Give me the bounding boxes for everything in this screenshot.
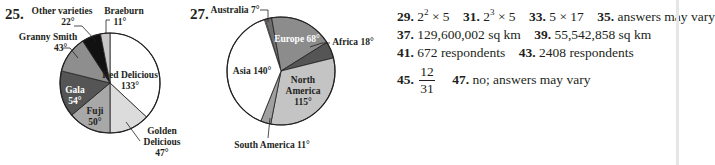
answer-29-rest: × 5 [429, 9, 450, 24]
label-red-delicious-value: 133° [121, 81, 139, 91]
label-africa: Africa 18° [332, 37, 374, 47]
label-other-value: 22° [61, 17, 75, 27]
label-granny: Granny Smith [19, 32, 78, 42]
label-fuji: Fuji [87, 106, 104, 116]
answer-35-text: answers may vary [618, 9, 715, 24]
label-golden: Golden [147, 126, 177, 136]
answer-33-text: 5 × 17 [549, 9, 584, 24]
label-granny-value: 43° [54, 43, 68, 53]
answer-43-text: 2408 respondents [539, 45, 634, 60]
answer-row-3: 41. 672 respondents 43. 2408 respondents [397, 44, 715, 62]
page-edge-divider [676, 0, 679, 165]
answer-29-base: 2 [417, 9, 424, 24]
answer-43-number: 43. [519, 45, 536, 60]
label-gala: Gala [65, 85, 85, 95]
label-red-delicious: Red Delicious [102, 70, 158, 80]
answer-39-number: 39. [534, 27, 551, 42]
answer-row-1: 29. 22 × 5 31. 23 × 5 33. 5 × 17 35. ans… [397, 3, 715, 26]
label-fuji-value: 50° [88, 117, 102, 127]
fraction-denominator: 31 [419, 81, 435, 97]
answer-31-base: 2 [483, 9, 490, 24]
label-other: Other varieties [32, 6, 93, 16]
answer-35-number: 35. [597, 9, 614, 24]
label-europe: Europe 68° [274, 34, 320, 44]
label-north-america: North [291, 75, 316, 85]
answer-37-text: 129,600,002 sq km [417, 27, 521, 42]
answer-47-number: 47. [452, 71, 469, 86]
answer-list: 29. 22 × 5 31. 23 × 5 33. 5 × 17 35. ans… [397, 3, 715, 97]
answer-41-text: 672 respondents [417, 45, 505, 60]
answer-37-number: 37. [397, 27, 414, 42]
pie-chart-apple-varieties [60, 33, 160, 133]
answer-45-number: 45. [397, 71, 414, 86]
label-north-america-2: America [286, 86, 321, 96]
answer-29-number: 29. [397, 9, 414, 24]
answer-row-4: 45. 12 31 47. no; answers may vary [397, 64, 715, 97]
label-south-america: South America 11° [234, 140, 310, 150]
answer-33-number: 33. [529, 9, 546, 24]
answer-47-text: no; answers may vary [472, 71, 590, 86]
label-braeburn: Braeburn [104, 6, 144, 16]
label-north-america-value: 115° [294, 97, 312, 107]
answer-39-text: 55,542,858 sq km [554, 27, 651, 42]
answer-31-number: 31. [463, 9, 480, 24]
fraction-numerator: 12 [419, 64, 435, 81]
label-gala-value: 54° [68, 96, 82, 106]
leader-braeburn [106, 20, 110, 34]
label-golden-value: 47° [155, 148, 169, 158]
label-asia: Asia 140° [233, 66, 272, 76]
answer-45-fraction: 12 31 [419, 64, 435, 97]
label-australia: Australia 7° [211, 5, 260, 15]
answer-row-2: 37. 129,600,002 sq km 39. 55,542,858 sq … [397, 26, 715, 44]
answer-41-number: 41. [397, 45, 414, 60]
label-braeburn-value: 11° [114, 17, 127, 27]
answer-31-rest: × 5 [495, 9, 516, 24]
label-golden-2: Delicious [144, 137, 181, 147]
